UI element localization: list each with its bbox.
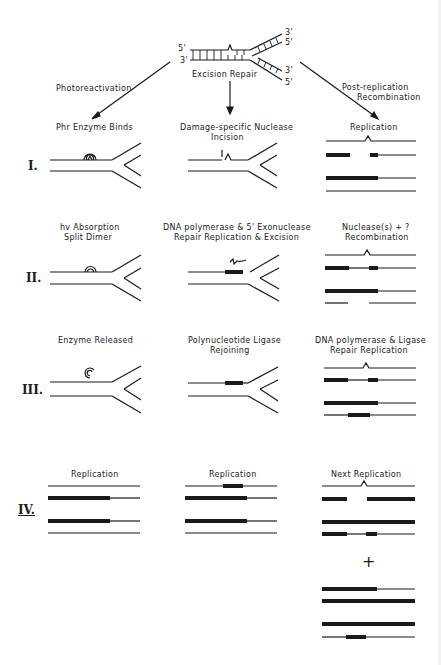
row4-left-label: Replication [71,470,119,480]
recombination-label: Recombination [357,93,421,103]
row-2-excision [188,255,279,301]
label-3-prime-fork-upper: 3' [285,28,293,38]
row-2-recombination [325,250,416,303]
label-3-prime-bottom: 3' [180,56,188,66]
label-3-prime-fork-lower: 3' [285,66,293,76]
row2-left-label-line2: Split Dimer [64,233,112,243]
photoreactivation-label: Photoreactivation [56,84,132,94]
label-5-prime-top: 5' [178,44,186,54]
roman-numeral-4: IV. [18,503,35,517]
row2-center-label-line1: DNA polymerase & 5' Exonuclease [163,223,311,233]
roman-numeral-3: III. [22,383,43,397]
row3-right-label-line2: Repair Replication [330,346,408,356]
row2-left-label-line1: hv Absorption [60,223,120,233]
row-4-excision [185,486,277,533]
label-5-prime-fork-lower: 5' [285,78,293,88]
row3-center-label-line2: Rejoining [210,346,250,356]
row-4-photoreactivation [48,486,140,533]
excision-repair-label: Excision Repair [192,70,257,80]
row4-center-label: Replication [209,470,257,480]
row2-center-label-line2: Repair Replication & Excision [174,233,299,243]
row2-right-label-line2: Recombination [345,233,409,243]
row1-center-label-line1: Damage-specific Nuclease [180,123,293,133]
row2-right-label-line1: Nuclease(s) + ? [342,223,410,233]
label-5-prime-fork-upper: 5' [285,38,293,48]
row3-left-label: Enzyme Released [58,336,133,346]
row-1-excision [188,143,277,188]
roman-numeral-1: I. [28,159,38,173]
row-1-recombination [326,136,416,191]
row1-right-label: Replication [350,123,398,133]
plus-sign: + [362,554,376,570]
row-3-photoreactivation [50,366,141,413]
row3-center-label-line1: Polynucleotide Ligase [188,336,281,346]
row1-center-label-line2: Incision [211,133,244,143]
roman-numeral-2: II. [26,271,41,285]
row-3-excision [188,367,278,413]
row4-right-label: Next Replication [331,470,401,480]
row1-left-label: Phr Enzyme Binds [56,123,133,133]
row-3-recombination [324,363,416,415]
row3-right-label-line1: DNA polymerase & Ligase [315,336,426,346]
row-2-photoreactivation [50,255,141,301]
row-1-photoreactivation [50,143,141,188]
post-replication-label: Post-replication [342,83,409,93]
